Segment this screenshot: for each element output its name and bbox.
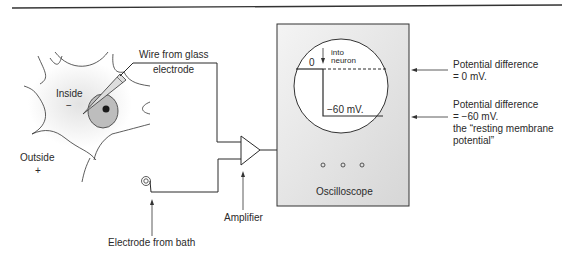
inside-sign: − [66,100,72,112]
annotation-1-line3: the “resting membrane [453,123,554,135]
cell-soma [88,94,118,128]
inside-label: Inside [56,88,83,100]
nucleolus [103,106,110,113]
arrow-up-icon [150,199,154,205]
outside-label: Outside [20,152,54,164]
trace-value-label: −60 mV. [327,104,364,116]
bath-electrode-spiral-icon [142,177,151,186]
arrow-up-icon [241,171,245,177]
bath-electrode-label: Electrode from bath [108,237,195,249]
neuron-label: neuron [331,56,356,65]
outside-sign: + [35,165,41,177]
wire-bath-electrode [150,159,241,192]
wire-label-line2: electrode [153,64,194,76]
amplifier-triangle [241,136,260,165]
top-rule [12,5,562,8]
annotation-0-line2: = 0 mV. [453,71,487,83]
annotation-1-line2: = −60 mV. [453,111,498,123]
arrow-left-icon [411,115,417,119]
annotation-0-line1: Potential difference [453,59,538,71]
annotation-1-line4: potential” [453,135,494,147]
wire-label-line1: Wire from glass [139,49,208,61]
annotation-1-line1: Potential difference [453,99,538,111]
oscilloscope-label: Oscilloscope [316,186,373,198]
amplifier-label: Amplifier [224,212,263,224]
arrow-left-icon [411,68,417,72]
zero-label: 0 [309,57,315,69]
